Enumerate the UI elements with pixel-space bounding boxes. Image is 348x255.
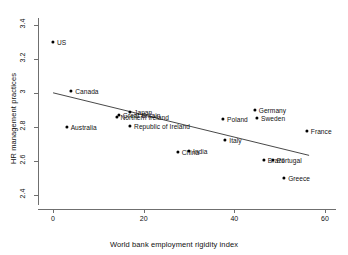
- y-tick-mark: [34, 161, 38, 162]
- x-tick-mark: [325, 209, 326, 213]
- y-tick-mark: [34, 93, 38, 94]
- y-tick-label: 2.4: [19, 184, 26, 202]
- data-point-label: France: [311, 128, 332, 135]
- data-point: [221, 118, 224, 121]
- data-point-label: Republic of Ireland: [134, 122, 190, 129]
- data-point-label: Japan: [134, 108, 152, 115]
- y-tick-label: 3: [19, 82, 26, 100]
- data-point-label: Germany: [259, 106, 286, 113]
- data-point-label: India: [193, 147, 208, 154]
- data-point: [224, 138, 227, 141]
- x-tick-label: 60: [313, 215, 337, 222]
- y-tick-label: 2.6: [19, 150, 26, 168]
- data-point: [305, 129, 308, 132]
- data-point: [255, 117, 258, 120]
- data-point: [51, 40, 54, 43]
- data-point: [176, 151, 179, 154]
- data-point: [129, 124, 132, 127]
- x-axis-line: [38, 209, 336, 210]
- x-tick-label: 20: [132, 215, 156, 222]
- y-axis-title: HR management practices: [9, 44, 18, 194]
- data-point-label: Greece: [288, 174, 310, 181]
- y-tick-mark: [34, 25, 38, 26]
- data-point: [65, 125, 68, 128]
- data-point: [253, 108, 256, 111]
- x-tick-mark: [144, 209, 145, 213]
- data-point-label: Italy: [229, 136, 241, 143]
- y-tick-mark: [34, 127, 38, 128]
- data-point-label: US: [57, 38, 66, 45]
- y-tick-mark: [34, 59, 38, 60]
- y-tick-label: 3.2: [19, 48, 26, 66]
- x-axis-title: World bank employment rigidity index: [0, 240, 348, 249]
- y-tick-label: 2.8: [19, 116, 26, 134]
- x-tick-mark: [53, 209, 54, 213]
- y-tick-label: 3.4: [19, 14, 26, 32]
- data-point: [70, 90, 73, 93]
- y-tick-mark: [34, 195, 38, 196]
- x-tick-label: 40: [222, 215, 246, 222]
- scatter-chart: 2.42.62.833.23.4 0204060 USCanadaAustral…: [0, 0, 348, 255]
- data-point: [283, 176, 286, 179]
- y-axis-line: [38, 18, 39, 205]
- data-point: [262, 158, 265, 161]
- data-point-label: Portugal: [277, 156, 302, 163]
- x-tick-label: 0: [41, 215, 65, 222]
- x-tick-mark: [234, 209, 235, 213]
- data-point-label: Poland: [227, 116, 248, 123]
- data-point-label: Australia: [71, 123, 97, 130]
- data-point-label: Sweden: [261, 115, 285, 122]
- data-point-label: Canada: [75, 88, 98, 95]
